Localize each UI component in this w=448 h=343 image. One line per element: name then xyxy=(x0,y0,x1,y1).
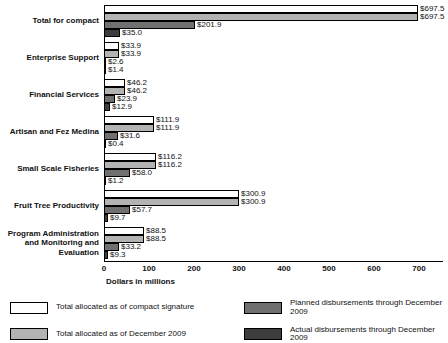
legend-label: Total allocated as of compact signature xyxy=(56,303,194,312)
bar-group: Small Scale Fisheries$116.2$116.2$58.0$1… xyxy=(0,153,448,185)
bar-group: Enterprise Support$33.9$33.9$2.6$1.4 xyxy=(0,42,448,74)
bar-value-label: $111.9 xyxy=(156,124,179,132)
bar-line: $33.9 xyxy=(104,42,448,50)
x-tick-label: 400 xyxy=(277,264,290,273)
bar-stack: $116.2$116.2$58.0$1.2 xyxy=(104,153,448,185)
bar-line: $58.0 xyxy=(104,169,448,177)
bar-line: $1.4 xyxy=(104,66,448,74)
bar-line: $697.5 xyxy=(104,5,448,13)
bar-value-label: $33.9 xyxy=(121,50,141,58)
legend-label: Planned disbursements through December 2… xyxy=(290,299,448,317)
bar xyxy=(104,116,154,124)
bar-line: $23.9 xyxy=(104,95,448,103)
bar xyxy=(104,190,239,198)
bar xyxy=(104,13,418,21)
bar-value-label: $88.5 xyxy=(146,235,166,243)
x-axis-line xyxy=(104,261,443,262)
bar-stack: $46.2$46.2$23.9$12.9 xyxy=(104,79,448,111)
bar xyxy=(104,227,144,235)
bar-stack: $33.9$33.9$2.6$1.4 xyxy=(104,42,448,74)
bar-line: $46.2 xyxy=(104,87,448,95)
x-tick-label: 100 xyxy=(142,264,155,273)
category-label: Artisan and Fez Medina xyxy=(0,127,104,136)
bar-group: Artisan and Fez Medina$111.9$111.9$31.6$… xyxy=(0,116,448,148)
bar-stack: $88.5$88.5$33.2$9.3 xyxy=(104,227,448,259)
category-label: Small Scale Fisheries xyxy=(0,164,104,173)
bar-line: $33.2 xyxy=(104,243,448,251)
bar-line: $300.9 xyxy=(104,198,448,206)
bar xyxy=(104,5,418,13)
legend: Total allocated as of compact signatureP… xyxy=(0,286,448,343)
bar xyxy=(104,153,156,161)
bar xyxy=(104,21,195,29)
bar xyxy=(104,29,120,37)
x-tick-label: 300 xyxy=(232,264,245,273)
bar xyxy=(104,42,119,50)
bar-value-label: $57.7 xyxy=(132,206,152,214)
bar-value-label: $1.4 xyxy=(108,66,124,74)
bar-value-label: $9.7 xyxy=(110,214,126,222)
bar-value-label: $0.4 xyxy=(108,140,124,148)
bar-group: Financial Services$46.2$46.2$23.9$12.9 xyxy=(0,79,448,111)
bar-stack: $300.9$300.9$57.7$9.7 xyxy=(104,190,448,222)
bar-line: $116.2 xyxy=(104,153,448,161)
bar-value-label: $116.2 xyxy=(158,161,182,169)
y-axis-line xyxy=(104,7,105,262)
bar-line: $0.4 xyxy=(104,140,448,148)
category-label: Enterprise Support xyxy=(0,53,104,62)
bar-line: $46.2 xyxy=(104,79,448,87)
bar-line: $116.2 xyxy=(104,161,448,169)
bar-line: $88.5 xyxy=(104,235,448,243)
bar-group: Total for compact$697.5$697.5$201.9$35.0 xyxy=(0,5,448,37)
legend-item: Total allocated as of December 2009 xyxy=(10,326,244,343)
legend-label: Total allocated as of December 2009 xyxy=(56,330,186,339)
x-tick-label: 200 xyxy=(187,264,200,273)
bar-group: Program Administration and Monitoring an… xyxy=(0,227,448,259)
bar-line: $111.9 xyxy=(104,124,448,132)
bar-line: $300.9 xyxy=(104,190,448,198)
bar-value-label: $697.5 xyxy=(420,13,444,21)
x-axis-label: Dollars in millions xyxy=(106,277,448,286)
bar-line: $33.9 xyxy=(104,50,448,58)
bar-line: $2.6 xyxy=(104,58,448,66)
legend-label: Actual disbursements through December 20… xyxy=(290,326,448,343)
bar-stack: $697.5$697.5$201.9$35.0 xyxy=(104,5,448,37)
bar xyxy=(104,198,239,206)
bar-line: $9.3 xyxy=(104,251,448,259)
bar-line: $201.9 xyxy=(104,21,448,29)
bar-value-label: $9.3 xyxy=(110,251,126,259)
bar-value-label: $300.9 xyxy=(241,198,265,206)
legend-item: Actual disbursements through December 20… xyxy=(244,326,448,343)
bar-line: $12.9 xyxy=(104,103,448,111)
category-label: Financial Services xyxy=(0,90,104,99)
category-label: Total for compact xyxy=(0,16,104,25)
x-axis: 0100200300400500600700 xyxy=(0,263,448,274)
bar-value-label: $201.9 xyxy=(197,21,221,29)
plot-area: Total for compact$697.5$697.5$201.9$35.0… xyxy=(0,5,448,262)
bar-line: $697.5 xyxy=(104,13,448,21)
bar-line: $57.7 xyxy=(104,206,448,214)
category-label: Fruit Tree Productivity xyxy=(0,201,104,210)
bar-line: $1.2 xyxy=(104,177,448,185)
bar-value-label: $12.9 xyxy=(112,103,132,111)
bar-value-label: $35.0 xyxy=(122,29,142,37)
x-tick-label: 0 xyxy=(102,264,106,273)
bar-line: $31.6 xyxy=(104,132,448,140)
bar-line: $9.7 xyxy=(104,214,448,222)
legend-item: Planned disbursements through December 2… xyxy=(244,299,448,317)
legend-swatch xyxy=(244,328,282,340)
legend-swatch xyxy=(10,328,48,340)
legend-swatch xyxy=(10,302,48,314)
bar xyxy=(104,79,125,87)
bar-value-label: $1.2 xyxy=(108,177,124,185)
x-tick-label: 600 xyxy=(367,264,380,273)
bar-line: $35.0 xyxy=(104,29,448,37)
bar-group: Fruit Tree Productivity$300.9$300.9$57.7… xyxy=(0,190,448,222)
legend-swatch xyxy=(244,302,282,314)
category-label: Program Administration and Monitoring an… xyxy=(0,229,104,257)
x-tick-label: 500 xyxy=(322,264,335,273)
x-tick-label: 700 xyxy=(412,264,425,273)
bar-value-label: $58.0 xyxy=(132,169,152,177)
bar-stack: $111.9$111.9$31.6$0.4 xyxy=(104,116,448,148)
